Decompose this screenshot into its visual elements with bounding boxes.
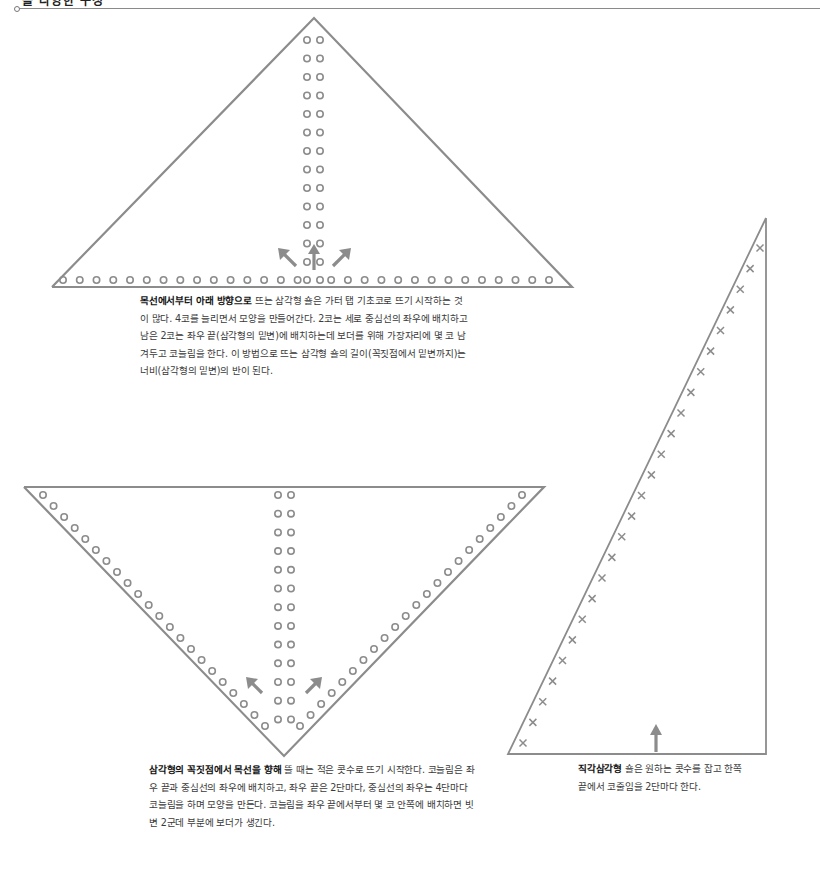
stitch-marker: [72, 525, 78, 531]
arrow-up-right-icon: [333, 248, 351, 266]
stitch-marker: [114, 569, 120, 575]
stitch-marker: [424, 591, 430, 597]
stitch-marker: [328, 277, 334, 283]
decrease-marker: [648, 471, 655, 478]
stitch-marker: [381, 635, 387, 641]
stitch-marker: [317, 92, 323, 98]
stitch-marker: [378, 277, 384, 283]
stitch-marker: [395, 277, 401, 283]
direction-arrows: [246, 677, 322, 693]
caption-bold-lead: 목선에서부터 아래 방향으로: [140, 295, 252, 306]
stitch-marker: [275, 604, 281, 610]
stitch-marker: [519, 492, 525, 498]
stitch-marker: [198, 657, 204, 663]
decrease-marker: [668, 430, 675, 437]
decrease-marker: [628, 513, 635, 520]
stitch-marker: [288, 623, 294, 629]
stitch-marker: [288, 585, 294, 591]
decrease-marker: [539, 698, 546, 705]
stitch-marker: [317, 240, 323, 246]
stitch-marker: [288, 604, 294, 610]
stitch-marker: [508, 503, 514, 509]
direction-arrows: [278, 244, 351, 270]
decrease-marker: [707, 348, 714, 355]
arrow-up-left-icon: [278, 248, 296, 266]
stitch-marker: [317, 222, 323, 228]
stitch-marker: [307, 712, 313, 718]
stitch-marker: [304, 111, 310, 117]
stitch-marker: [177, 277, 183, 283]
decrease-marker: [727, 306, 734, 313]
stitch-marker: [167, 624, 173, 630]
stitch-marker: [317, 148, 323, 154]
stitch-marker: [318, 701, 324, 707]
stitch-marker: [275, 660, 281, 666]
stitch-marker: [93, 277, 99, 283]
stitch-marker: [177, 635, 183, 641]
decrease-marker: [569, 636, 576, 643]
stitch-marker: [529, 277, 535, 283]
stitch-marker: [40, 492, 46, 498]
stitch-marker: [304, 55, 310, 61]
shawl-diagrams: [0, 0, 820, 870]
stitch-marker: [360, 657, 366, 663]
stitch-marker: [288, 660, 294, 666]
stitch-marker: [124, 580, 130, 586]
stitch-marker: [275, 623, 281, 629]
stitch-marker: [146, 602, 152, 608]
stitch-marker: [317, 203, 323, 209]
stitch-marker: [361, 277, 367, 283]
stitch-marker: [135, 591, 141, 597]
stitch-marker: [445, 569, 451, 575]
stitch-marker: [288, 716, 294, 722]
stitch-marker: [288, 679, 294, 685]
stitch-marker: [304, 129, 310, 135]
stitch-marker: [288, 492, 294, 498]
stitch-marker: [211, 277, 217, 283]
stitch-marker: [317, 277, 323, 283]
stitch-marker: [275, 567, 281, 573]
caption-right-triangle: 직각삼각형 숄은 원하는 콧수를 잡고 한쪽 끝에서 코줄임을 2단마다 한다.: [578, 760, 748, 795]
caption-bottom-up-triangle: 삼각형의 꼭짓점에서 목선을 향해 뜰 때는 적은 콧수로 뜨기 시작한다. 코…: [149, 761, 479, 831]
stitch-marker: [455, 558, 461, 564]
decrease-marker: [529, 719, 536, 726]
stitch-marker: [317, 129, 323, 135]
stitch-marker: [462, 277, 468, 283]
stitch-marker: [345, 277, 351, 283]
stitch-marker: [278, 277, 284, 283]
stitch-marker: [304, 37, 310, 43]
stitch-marker: [230, 690, 236, 696]
stitch-marker: [288, 641, 294, 647]
triangle-outline: [508, 218, 766, 754]
stitch-marker: [294, 277, 300, 283]
stitch-marker: [288, 567, 294, 573]
decrease-marker: [737, 286, 744, 293]
stitch-marker: [466, 547, 472, 553]
stitch-marker: [244, 277, 250, 283]
stitch-marker: [251, 712, 257, 718]
triangle-outline: [24, 487, 544, 756]
stitch-marker: [275, 679, 281, 685]
right-triangle-diagram: [508, 218, 766, 754]
stitch-marker: [156, 613, 162, 619]
stitch-marker: [261, 277, 267, 283]
stitch-marker: [304, 148, 310, 154]
stitch-marker: [479, 277, 485, 283]
stitch-marker: [445, 277, 451, 283]
stitch-marker: [50, 503, 56, 509]
stitch-marker: [288, 548, 294, 554]
stitch-marker: [82, 536, 88, 542]
stitch-marker: [275, 585, 281, 591]
decrease-marker: [697, 368, 704, 375]
stitch-marker: [262, 723, 268, 729]
decrease-markers: [520, 245, 764, 747]
decrease-marker: [589, 595, 596, 602]
stitch-marker: [93, 547, 99, 553]
stitch-marker: [317, 259, 323, 265]
decrease-marker: [757, 245, 764, 252]
stitch-marker: [304, 240, 310, 246]
decrease-marker: [599, 575, 606, 582]
arrow-up-icon: [650, 724, 662, 752]
arrow-up-right-icon: [306, 677, 322, 693]
stitch-marker: [288, 511, 294, 517]
